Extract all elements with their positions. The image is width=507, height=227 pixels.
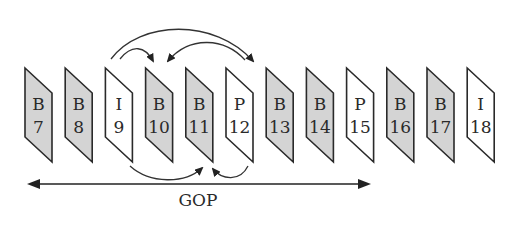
arrow-p12-to-b10 <box>168 42 245 61</box>
frame-type-label: B <box>394 94 407 114</box>
arrow-i9-to-b11 <box>130 166 202 180</box>
frame-parallelogram <box>65 68 92 162</box>
frame-type-label: B <box>434 94 447 114</box>
frame-type-label: B <box>314 94 327 114</box>
frame-number-label: 7 <box>33 117 44 137</box>
frame-type-label: B <box>153 94 166 114</box>
arrow-i9-to-b10 <box>120 49 153 61</box>
frame-parallelogram <box>387 68 414 162</box>
frame-parallelogram <box>347 68 374 162</box>
frame-parallelogram <box>266 68 293 162</box>
frame-parallelogram <box>467 68 494 162</box>
reference-arrows-top <box>111 29 253 61</box>
gop-span: GOP <box>27 179 371 210</box>
frame-number-label: 17 <box>430 117 452 137</box>
frame-type-label: I <box>116 94 123 114</box>
frame-number-label: 11 <box>188 117 210 137</box>
frame-b-7: B7 <box>25 68 52 162</box>
frame-sequence: B7B8I9B10B11P12B13B14P15B16B17I18 <box>25 68 494 162</box>
frame-i-18: I18 <box>467 68 494 162</box>
arrow-p12-to-b11 <box>213 166 248 178</box>
frame-parallelogram <box>186 68 213 162</box>
frame-number-label: 10 <box>148 117 170 137</box>
frame-b-14: B14 <box>306 68 333 162</box>
frame-number-label: 8 <box>73 117 84 137</box>
frame-b-8: B8 <box>65 68 92 162</box>
frame-b-11: B11 <box>186 68 213 162</box>
reference-arrows-bottom <box>130 166 248 180</box>
frame-number-label: 14 <box>309 117 331 137</box>
gop-arrowhead-right <box>358 179 371 189</box>
frame-number-label: 18 <box>470 117 492 137</box>
frame-type-label: B <box>72 94 85 114</box>
frame-i-9: I9 <box>105 68 132 162</box>
frame-parallelogram <box>25 68 52 162</box>
frame-parallelogram <box>226 68 253 162</box>
frame-b-17: B17 <box>427 68 454 162</box>
frame-number-label: 9 <box>113 117 124 137</box>
frame-b-13: B13 <box>266 68 293 162</box>
frame-type-label: B <box>193 94 206 114</box>
frame-parallelogram <box>427 68 454 162</box>
gop-label: GOP <box>179 190 218 210</box>
frame-type-label: I <box>477 94 484 114</box>
frame-p-12: P12 <box>226 68 253 162</box>
frame-type-label: P <box>234 94 245 114</box>
gop-diagram: B7B8I9B10B11P12B13B14P15B16B17I18 GOP <box>0 0 507 227</box>
frame-b-10: B10 <box>146 68 173 162</box>
frame-parallelogram <box>146 68 173 162</box>
frame-type-label: P <box>354 94 365 114</box>
frame-number-label: 16 <box>389 117 411 137</box>
frame-b-16: B16 <box>387 68 414 162</box>
frame-parallelogram <box>105 68 132 162</box>
frame-type-label: B <box>32 94 45 114</box>
frame-number-label: 12 <box>229 117 251 137</box>
frame-type-label: B <box>273 94 286 114</box>
frame-number-label: 15 <box>349 117 371 137</box>
frame-parallelogram <box>306 68 333 162</box>
frame-number-label: 13 <box>269 117 291 137</box>
frame-p-15: P15 <box>347 68 374 162</box>
arrow-i9-to-p12 <box>111 29 253 61</box>
gop-arrowhead-left <box>27 179 40 189</box>
